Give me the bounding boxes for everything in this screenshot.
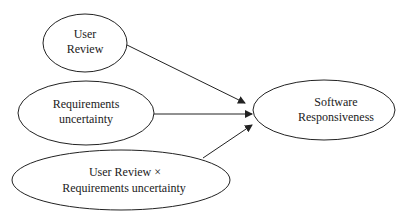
node-user-review: User Review — [43, 14, 127, 72]
node-label-line: Responsiveness — [298, 110, 374, 124]
node-label-line: Requirements uncertainty — [62, 181, 186, 195]
research-model-diagram: User Review Requirements uncertainty Use… — [0, 0, 409, 219]
node-software-responsiveness: Software Responsiveness — [253, 80, 395, 140]
node-interaction: User Review × Requirements uncertainty — [12, 150, 230, 210]
node-label-line: User — [74, 27, 97, 41]
edge-user-review-to-software-responsiveness — [127, 45, 245, 103]
node-label-line: uncertainty — [59, 112, 113, 126]
edge-interaction-to-software-responsiveness — [203, 125, 252, 158]
node-label-line: Requirements — [53, 97, 120, 111]
node-label-line: User Review × — [89, 165, 161, 179]
node-label-line: Review — [67, 42, 104, 56]
node-label-line: Software — [314, 95, 357, 109]
node-requirements-uncertainty: Requirements uncertainty — [18, 81, 154, 145]
